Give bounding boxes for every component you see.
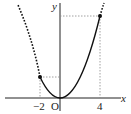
point-x-minus-2 — [38, 75, 42, 79]
x-axis-label: x — [121, 93, 126, 104]
origin-label: O — [51, 101, 59, 112]
tick-label-4: 4 — [97, 101, 103, 112]
tick-label-minus-2: −2 — [33, 101, 45, 112]
curve-dotted-right — [100, 3, 104, 16]
graph-canvas — [0, 0, 131, 114]
curve-solid — [40, 16, 100, 98]
y-axis-label: y — [52, 1, 57, 12]
parabola-diagram: y x O −2 4 — [0, 0, 131, 114]
curve-dotted-left — [18, 5, 40, 77]
point-x-4 — [98, 14, 102, 18]
guide-lines — [40, 16, 100, 98]
